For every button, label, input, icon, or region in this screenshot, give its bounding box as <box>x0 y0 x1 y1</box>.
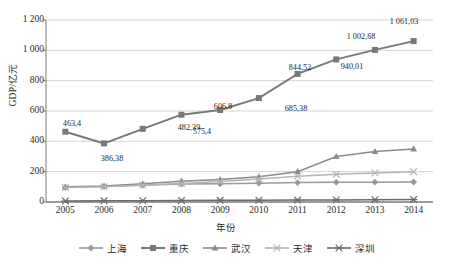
square-marker <box>140 126 146 132</box>
square-legend-icon <box>140 242 166 254</box>
y-tick-label: 400 <box>2 136 44 146</box>
series-2 <box>62 38 416 146</box>
square-marker <box>62 129 68 135</box>
data-label: 844,52 <box>289 64 312 73</box>
y-axis-ticks: 02004006008001 0001 200 <box>0 0 44 210</box>
y-tick-label: 200 <box>2 167 44 177</box>
legend-label: 深圳 <box>354 241 375 255</box>
diamond-marker <box>410 179 417 186</box>
asterisk-marker <box>178 197 186 204</box>
diamond-legend-icon <box>78 242 104 254</box>
asterisk-legend-icon <box>326 242 352 254</box>
data-label: 463,4 <box>63 120 81 129</box>
series-line <box>65 41 413 143</box>
y-tick-label: 1 200 <box>2 15 44 25</box>
asterisk-marker <box>100 197 108 204</box>
legend-item-4[interactable]: 天津 <box>264 241 313 255</box>
legend-item-1[interactable]: 上海 <box>78 241 127 255</box>
data-label: 940,01 <box>341 63 364 72</box>
diamond-marker <box>87 245 94 252</box>
square-marker <box>178 112 184 118</box>
legend-label: 天津 <box>292 241 313 255</box>
square-marker <box>411 38 417 44</box>
data-label: 685,38 <box>285 105 308 114</box>
triangle-legend-icon <box>202 242 228 254</box>
y-tick-label: 1 000 <box>2 45 44 55</box>
asterisk-marker <box>62 198 70 205</box>
series-5 <box>62 196 418 204</box>
data-label: 386,38 <box>101 155 124 164</box>
cross-legend-icon <box>264 242 290 254</box>
data-label: 1 061,03 <box>390 18 419 27</box>
legend-label: 武汉 <box>230 241 251 255</box>
y-tick-label: 800 <box>2 76 44 86</box>
x-axis-title: 年份 <box>0 220 452 234</box>
y-tick-label: 600 <box>2 106 44 116</box>
data-label: 606,8 <box>214 103 232 112</box>
legend-label: 重庆 <box>168 241 189 255</box>
legend-label: 上海 <box>106 241 127 255</box>
series-line <box>65 200 413 201</box>
square-marker <box>150 245 156 251</box>
legend-item-5[interactable]: 深圳 <box>326 241 375 255</box>
diamond-marker <box>333 179 340 186</box>
asterisk-marker <box>139 197 147 204</box>
square-marker <box>333 56 339 62</box>
diamond-marker <box>294 179 301 186</box>
diamond-marker <box>372 179 379 186</box>
x-tick-label: 2014 <box>391 205 437 215</box>
y-tick-label: 0 <box>2 197 44 207</box>
legend-item-3[interactable]: 武汉 <box>202 241 251 255</box>
square-marker <box>372 47 378 53</box>
legend-item-2[interactable]: 重庆 <box>140 241 189 255</box>
data-label: 1 002,68 <box>347 33 376 42</box>
asterisk-marker <box>335 245 343 252</box>
square-marker <box>101 140 107 146</box>
data-label: 575,4 <box>193 128 211 137</box>
asterisk-marker <box>216 197 224 204</box>
line-chart: GDP/亿元 年份 02004006008001 0001 200 200520… <box>0 0 452 264</box>
square-marker <box>256 95 262 101</box>
chart-legend: 上海重庆武汉天津深圳 <box>0 241 452 255</box>
